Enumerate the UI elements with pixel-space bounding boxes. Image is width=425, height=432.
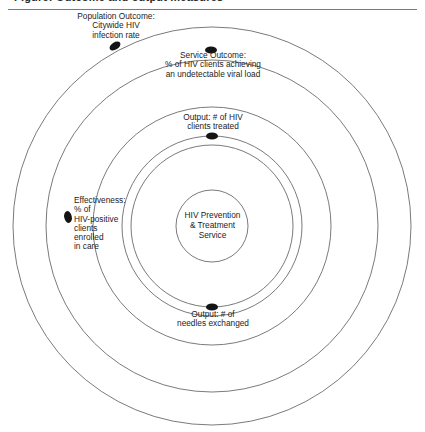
- marker-population-outcome-dot: [108, 40, 122, 52]
- label-service-outcome: Service Outcome: % of HIV clients achiev…: [142, 51, 284, 79]
- marker-output-treated-dot: [206, 132, 218, 139]
- label-center-service: HIV Prevention & Treatment Service: [176, 211, 249, 241]
- ring-markers: [63, 40, 218, 311]
- diagram-page: Figure: Outcome and output measures Popu…: [0, 0, 425, 432]
- label-effectiveness: Effectiveness: % of HIV-positive clients…: [74, 196, 132, 252]
- marker-effectiveness-dot: [63, 210, 73, 223]
- label-output-needles-exchanged: Output: # of needles exchanged: [156, 310, 270, 329]
- label-output-clients-treated: Output: # of HIV clients treated: [156, 113, 270, 132]
- label-population-outcome: Population Outcome: Citywide HIV infecti…: [52, 12, 180, 40]
